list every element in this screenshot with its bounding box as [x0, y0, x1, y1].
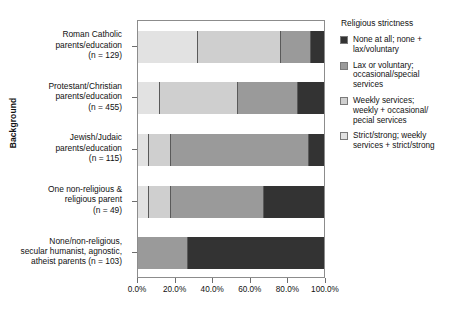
- stacked-bar-chart: Background Roman Catholicparents/educati…: [0, 0, 461, 310]
- category-label: None/non-religious,secular humanist, agn…: [0, 236, 122, 267]
- bar-segment: [138, 186, 149, 218]
- category-label-line: (n = 129): [0, 50, 122, 60]
- category-label-line: One non-religious &: [0, 184, 122, 194]
- y-axis-tick: [132, 97, 137, 98]
- bar-segment: [149, 186, 171, 218]
- x-axis-tick: [250, 278, 251, 283]
- category-label-line: parents/education: [0, 40, 122, 50]
- bar-row: [138, 186, 324, 218]
- bar-row: [138, 134, 324, 166]
- x-axis-tick: [325, 278, 326, 283]
- legend-label: Weekly services;weekly + occasional/peci…: [353, 96, 428, 125]
- bar-segment: [281, 31, 311, 63]
- bar-segment: [138, 134, 149, 166]
- bar-row: [138, 31, 324, 63]
- category-label-line: parents/education: [0, 143, 122, 153]
- category-label-line: secular humanist, agnostic,: [0, 246, 122, 256]
- x-axis-tick: [175, 278, 176, 283]
- category-label-line: Protestant/Christian: [0, 81, 122, 91]
- legend-title: Religious strictness: [341, 18, 458, 28]
- x-axis-tick: [212, 278, 213, 283]
- category-label-line: (n = 115): [0, 153, 122, 163]
- legend-item: Lax or voluntary;occasional/specialservi…: [340, 61, 458, 90]
- category-label-line: Roman Catholic: [0, 29, 122, 39]
- category-label: Protestant/Christianparents/education(n …: [0, 81, 122, 112]
- bar-row: [138, 82, 324, 114]
- category-label-line: atheist parents (n = 103): [0, 256, 122, 266]
- bar-segment: [138, 237, 188, 269]
- bar-segment: [198, 31, 282, 63]
- bar-segment: [298, 82, 324, 114]
- legend-swatch: [340, 132, 348, 140]
- category-label: One non-religious &religious parent(n = …: [0, 184, 122, 215]
- legend-label: None at all; none +lax/voluntary: [353, 35, 422, 55]
- plot-area: [137, 20, 325, 278]
- x-axis-tick-label: 100.0%: [302, 285, 348, 294]
- bar-segment: [238, 82, 298, 114]
- bar-segment: [149, 134, 171, 166]
- legend-item: Weekly services;weekly + occasional/peci…: [340, 96, 458, 125]
- legend: Religious strictness None at all; none +…: [340, 18, 458, 157]
- legend-swatch: [340, 36, 348, 44]
- bar-segment: [171, 134, 309, 166]
- legend-item: Strict/strong; weeklyservices + strict/s…: [340, 131, 458, 151]
- x-axis-tick: [287, 278, 288, 283]
- y-axis-tick: [132, 46, 137, 47]
- bar-segment: [188, 237, 324, 269]
- y-axis-tick: [132, 252, 137, 253]
- bar-segment: [264, 186, 324, 218]
- bar-segment: [160, 82, 238, 114]
- category-label-line: Jewish/Judaic: [0, 132, 122, 142]
- x-axis-tick: [137, 278, 138, 283]
- category-label-line: (n = 49): [0, 205, 122, 215]
- bar-segment: [171, 186, 264, 218]
- y-axis-tick: [132, 201, 137, 202]
- bar-row: [138, 237, 324, 269]
- category-label: Roman Catholicparents/education(n = 129): [0, 29, 122, 60]
- y-axis-tick: [132, 149, 137, 150]
- bar-segment: [311, 31, 324, 63]
- category-label-line: parents/education: [0, 91, 122, 101]
- legend-item-group: None at all; none +lax/voluntaryLax or v…: [340, 35, 458, 151]
- legend-swatch: [340, 62, 348, 70]
- legend-label: Lax or voluntary;occasional/specialservi…: [353, 61, 419, 90]
- bar-segment: [309, 134, 324, 166]
- category-label-line: None/non-religious,: [0, 236, 122, 246]
- legend-swatch: [340, 97, 348, 105]
- bar-segment: [138, 31, 198, 63]
- category-label-line: religious parent: [0, 194, 122, 204]
- category-label-line: (n = 455): [0, 102, 122, 112]
- legend-label: Strict/strong; weeklyservices + strict/s…: [353, 131, 435, 151]
- category-label: Jewish/Judaicparents/education(n = 115): [0, 132, 122, 163]
- bar-segment: [138, 82, 160, 114]
- legend-item: None at all; none +lax/voluntary: [340, 35, 458, 55]
